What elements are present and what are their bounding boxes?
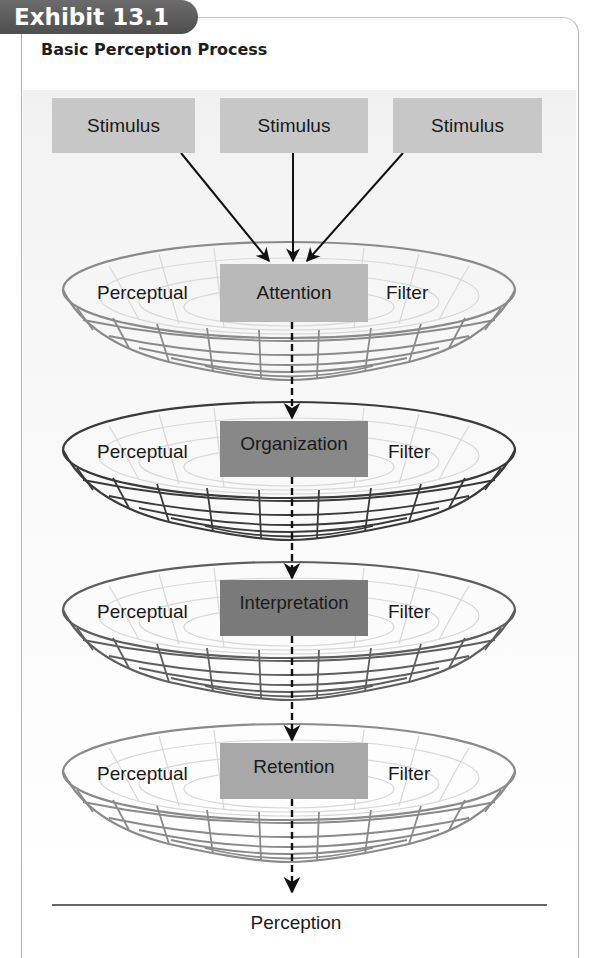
stage-right-label: Filter bbox=[388, 441, 430, 463]
stimulus-box-2: Stimulus bbox=[220, 98, 368, 153]
stimulus-box-1: Stimulus bbox=[52, 98, 195, 153]
stage-right-label: Filter bbox=[388, 763, 430, 785]
stage-left-label: Perceptual bbox=[97, 282, 188, 304]
stimulus-label: Stimulus bbox=[431, 115, 504, 137]
stimulus-box-3: Stimulus bbox=[393, 98, 542, 153]
stage-center-label: Retention bbox=[253, 756, 334, 778]
stimulus-label: Stimulus bbox=[87, 115, 160, 137]
stage-left-label: Perceptual bbox=[97, 601, 188, 623]
stage-right-label: Filter bbox=[388, 601, 430, 623]
perception-output-label: Perception bbox=[0, 912, 592, 934]
stage-box-interpretation: Interpretation bbox=[220, 580, 368, 636]
stage-right-label: Filter bbox=[386, 282, 428, 304]
stage-left-label: Perceptual bbox=[97, 763, 188, 785]
stage-box-attention: Attention bbox=[220, 264, 368, 322]
stage-box-organization: Organization bbox=[220, 421, 368, 477]
stage-center-label: Interpretation bbox=[239, 592, 348, 614]
stage-box-retention: Retention bbox=[220, 743, 368, 799]
stage-center-label: Attention bbox=[257, 282, 332, 304]
stage-left-label: Perceptual bbox=[97, 441, 188, 463]
stimulus-label: Stimulus bbox=[258, 115, 331, 137]
stage-center-label: Organization bbox=[240, 433, 348, 455]
